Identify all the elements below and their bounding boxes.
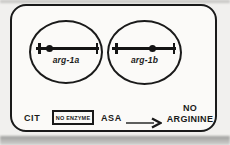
- figure-frame: arg-1a arg-1b CIT NO ENZYME ASA NO ARGIN…: [10, 4, 217, 132]
- enzyme-box: NO ENZYME: [52, 110, 94, 125]
- gene-locus-dot: [149, 45, 156, 52]
- chromosome-tick-right: [96, 43, 99, 54]
- pathway-product-label: NO ARGININE: [162, 103, 218, 125]
- scan-artifact-top: [0, 0, 230, 3]
- arrow-right-icon: [126, 115, 162, 127]
- chromosome-tick-left: [38, 43, 41, 54]
- plate-label: arg-1a: [31, 55, 101, 65]
- plate-arg-1a: arg-1a: [29, 20, 103, 84]
- scan-artifact-bottom: [0, 136, 230, 145]
- pathway-product-line1: NO: [162, 103, 218, 114]
- pathway-product-line2: ARGININE: [162, 114, 218, 125]
- pathway-asa-label: ASA: [101, 113, 122, 123]
- enzyme-box-label: NO ENZYME: [56, 115, 91, 121]
- chromosome-tick-right: [173, 43, 176, 54]
- chromosome-line: [112, 47, 176, 50]
- plate-arg-1b: arg-1b: [107, 20, 182, 85]
- plate-label: arg-1b: [109, 55, 180, 65]
- pathway-cit-label: CIT: [24, 113, 40, 123]
- chromosome-tick-left: [115, 43, 118, 54]
- gene-locus-dot: [46, 45, 53, 52]
